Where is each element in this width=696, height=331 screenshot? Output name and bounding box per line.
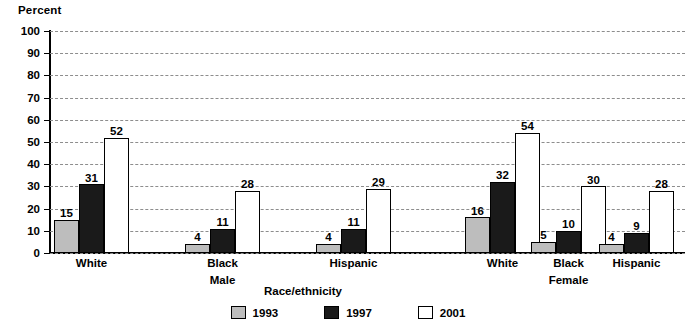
legend-label-1997: 1997 xyxy=(346,307,372,319)
bar-value-label: 52 xyxy=(110,125,123,138)
bar-group: 41129 xyxy=(316,31,391,253)
category-label-white: White xyxy=(487,257,518,269)
bar-value-label: 4 xyxy=(325,231,331,244)
y-tick-label-90: 90 xyxy=(27,47,40,59)
bar-2001-hispanic: 29 xyxy=(366,189,391,253)
plot-area: 1009080706050403020100 15315241128411291… xyxy=(50,31,685,253)
bar-value-label: 4 xyxy=(194,231,200,244)
category-label-white: White xyxy=(76,257,107,269)
y-tick-label-0: 0 xyxy=(34,247,40,259)
gridline-0 xyxy=(50,253,685,254)
legend-item-2001[interactable]: 2001 xyxy=(418,306,466,319)
category-label-black: Black xyxy=(553,257,584,269)
y-axis-title: Percent xyxy=(18,4,62,16)
y-tick-label-80: 80 xyxy=(27,69,40,81)
bar-1997-white: 31 xyxy=(79,184,104,253)
legend-label-1993: 1993 xyxy=(253,307,279,319)
bar-1993-black: 4 xyxy=(185,244,210,253)
bar-value-label: 15 xyxy=(60,207,73,220)
y-tick-label-10: 10 xyxy=(27,225,40,237)
bar-groups: 1531524112841129163254510304928 xyxy=(50,31,685,253)
legend-label-2001: 2001 xyxy=(440,307,466,319)
bar-value-label: 30 xyxy=(587,174,600,187)
bar-1993-white: 15 xyxy=(54,220,79,253)
y-tick-label-30: 30 xyxy=(27,180,40,192)
y-tick-label-20: 20 xyxy=(27,203,40,215)
category-label-black: Black xyxy=(207,257,238,269)
legend-swatch-2001 xyxy=(418,306,433,319)
legend-swatch-1997 xyxy=(324,306,339,319)
bar-2001-hispanic: 28 xyxy=(649,191,674,253)
bar-1997-hispanic: 11 xyxy=(341,229,366,253)
bar-1997-black: 10 xyxy=(556,231,581,253)
bar-value-label: 32 xyxy=(496,169,509,182)
bar-2001-white: 52 xyxy=(104,138,129,253)
bar-value-label: 11 xyxy=(347,216,359,229)
sex-label-male: Male xyxy=(210,274,236,286)
y-tick-label-50: 50 xyxy=(27,136,40,148)
y-tick-label-100: 100 xyxy=(21,25,40,37)
bar-1993-black: 5 xyxy=(531,242,556,253)
legend-item-1993[interactable]: 1993 xyxy=(231,306,279,319)
legend-swatch-1993 xyxy=(231,306,246,319)
bar-value-label: 10 xyxy=(562,218,575,231)
bar-group: 153152 xyxy=(54,31,129,253)
y-tick-label-40: 40 xyxy=(27,158,40,170)
bar-group: 51030 xyxy=(531,31,606,253)
y-tick-label-70: 70 xyxy=(27,92,40,104)
bar-1997-white: 32 xyxy=(490,182,515,253)
bar-1997-black: 11 xyxy=(210,229,235,253)
y-tick-label-60: 60 xyxy=(27,114,40,126)
bar-value-label: 31 xyxy=(85,172,98,185)
chart-legend: 199319972001 xyxy=(0,306,696,319)
x-axis-title: Race/ethnicity xyxy=(264,285,342,297)
category-label-hispanic: Hispanic xyxy=(330,257,378,269)
bar-1993-hispanic: 4 xyxy=(316,244,341,253)
bar-value-label: 4 xyxy=(608,231,614,244)
bar-group: 41128 xyxy=(185,31,260,253)
bar-1997-hispanic: 9 xyxy=(624,233,649,253)
bar-group: 163254 xyxy=(465,31,540,253)
bar-2001-black: 28 xyxy=(235,191,260,253)
bar-value-label: 28 xyxy=(241,178,254,191)
bar-group: 4928 xyxy=(599,31,674,253)
bar-chart: Percent 1009080706050403020100 153152411… xyxy=(0,0,696,331)
category-label-hispanic: Hispanic xyxy=(613,257,661,269)
bar-value-label: 29 xyxy=(372,176,385,189)
bar-1993-white: 16 xyxy=(465,217,490,253)
bar-value-label: 5 xyxy=(540,229,546,242)
bar-value-label: 28 xyxy=(655,178,668,191)
legend-item-1997[interactable]: 1997 xyxy=(324,306,372,319)
bar-1993-hispanic: 4 xyxy=(599,244,624,253)
bar-value-label: 11 xyxy=(216,216,228,229)
bar-value-label: 16 xyxy=(471,205,484,218)
y-tick-mark-0 xyxy=(44,253,50,254)
sex-label-female: Female xyxy=(549,274,589,286)
bar-value-label: 9 xyxy=(633,220,639,233)
